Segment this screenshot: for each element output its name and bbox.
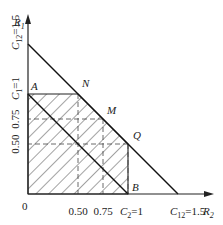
x-tick-label: C12=1.5 (170, 205, 206, 220)
x-axis-label: R2 (202, 205, 214, 220)
x-tick-label: 0.50 (68, 205, 88, 217)
y-tick-label: 0.75 (9, 109, 21, 129)
x-tick-label: C2=1 (120, 205, 143, 220)
y-axis-arrow-icon (25, 14, 31, 24)
point-label-n: N (81, 77, 90, 89)
point-label-m: M (106, 104, 117, 116)
origin-label: 0 (22, 200, 28, 212)
point-label-a: A (30, 80, 38, 92)
y-tick-label: 0.50 (9, 134, 21, 154)
x-tick-label: 0.75 (93, 205, 113, 217)
point-label-q: Q (133, 129, 141, 141)
y-tick-label: C1=1 (9, 77, 24, 100)
x-axis-arrow-icon (204, 191, 214, 197)
point-label-b: B (132, 181, 139, 193)
capacity-region-diagram: 0.500.75C2=1C12=1.50.500.75C1=1C12=1.50R… (0, 0, 223, 225)
